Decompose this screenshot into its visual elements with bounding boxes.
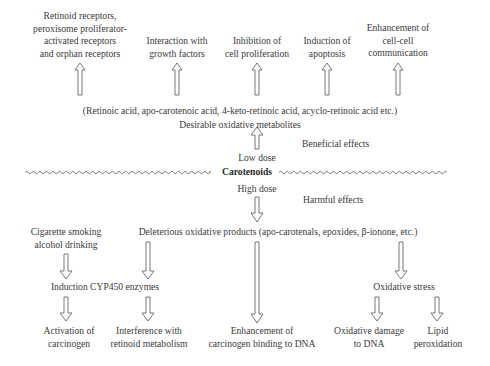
down-arrow-icon (142, 242, 154, 279)
up-arrow-icon (393, 63, 403, 95)
low-dose-label: Low dose (238, 152, 276, 165)
effect-cell-communication: Enhancement of cell-cell communication (367, 22, 430, 60)
beneficial-effects-label: Beneficial effects (302, 138, 369, 151)
carotenoids-label: Carotenoids (222, 166, 272, 179)
effect-retinoid-receptors: Retinoid receptors, peroxisome prolifera… (33, 10, 127, 60)
effect-cell-proliferation: Inhibition of cell proliferation (225, 35, 289, 60)
outcome-dna-binding: Enhancement of carcinogen binding to DNA (209, 325, 316, 350)
harmful-effects-label: Harmful effects (303, 194, 363, 207)
effect-growth-factors: Interaction with growth factors (146, 35, 207, 60)
oxidative-stress: Oxidative stress (373, 281, 435, 294)
outcome-carcinogen-activation: Activation of carcinogen (44, 325, 95, 350)
down-arrow-icon (142, 297, 154, 321)
outcome-lipid-peroxidation: Lipid peroxidation (414, 325, 463, 350)
up-arrow-icon (252, 63, 262, 95)
down-arrow-icon (251, 197, 263, 222)
effect-apoptosis: Induction of apoptosis (303, 35, 350, 60)
down-arrow-icon (251, 242, 263, 323)
outcome-oxidative-dna-damage: Oxidative damage to DNA (334, 325, 404, 350)
down-arrow-icon (431, 297, 443, 321)
metabolites-title: Desirable oxidative metabolites (179, 119, 300, 132)
wavy-line-left (25, 171, 210, 174)
deleterious-products: Deleterious oxidative products (apo-caro… (139, 226, 418, 239)
metabolites-examples: (Retinoic acid, apo-carotenoic acid, 4-k… (83, 105, 397, 118)
outcome-retinoid-interference: Interference with retinoid metabolism (110, 325, 187, 350)
cofactor-smoking-drinking: Cigarette smoking alcohol drinking (31, 226, 102, 251)
down-arrow-icon (60, 254, 72, 279)
up-arrow-icon (75, 63, 85, 95)
induction-cyp450: Induction CYP450 enzymes (51, 281, 159, 294)
up-arrow-icon (172, 63, 182, 95)
high-dose-label: High dose (237, 183, 276, 196)
down-arrow-icon (371, 297, 383, 321)
wavy-line-right (279, 171, 447, 174)
up-arrow-icon (322, 63, 332, 95)
down-arrow-icon (395, 242, 407, 279)
down-arrow-icon (60, 297, 72, 321)
